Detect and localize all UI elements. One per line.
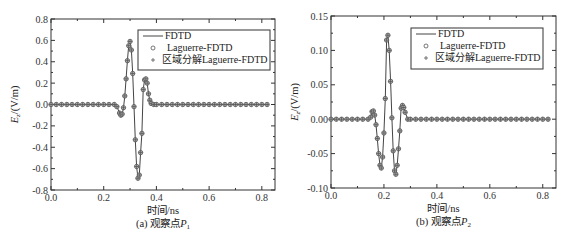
y-tick-label: 0.0 xyxy=(36,99,49,110)
y-tick-label: 0.10 xyxy=(311,45,329,56)
y-axis-label: Ez/(V/m) xyxy=(289,83,302,122)
x-tick-label: 0.2 xyxy=(378,190,391,201)
y-tick-label: -0.8 xyxy=(32,185,48,196)
y-tick-label: -0.2 xyxy=(32,120,48,131)
legend: FDTDLaguerre-FDTD区域分解Laguerre-FDTD xyxy=(411,28,543,69)
y-tick-label: -0.10 xyxy=(307,183,328,194)
legend-label: 区域分解Laguerre-FDTD xyxy=(162,53,268,65)
y-tick-label: -0.4 xyxy=(32,142,48,153)
y-tick-label: 0.4 xyxy=(36,56,49,67)
y-axis-label: Ez/(V/m) xyxy=(9,85,22,124)
x-tick-label: 0.6 xyxy=(484,190,497,201)
x-tick-label: 0.4 xyxy=(150,192,163,203)
legend-label: FDTD xyxy=(438,28,464,39)
chart-caption: (a) 观察点P1 xyxy=(136,217,191,231)
y-tick-label: 0.00 xyxy=(311,114,329,125)
chart-caption: (b) 观察点P2 xyxy=(416,215,471,229)
legend-label: Laguerre-FDTD xyxy=(440,40,506,51)
legend: FDTDLaguerre-FDTD区域分解Laguerre-FDTD xyxy=(138,30,270,70)
chart-b: 0.00.20.40.60.80.150.100.050.00-0.05-0.1… xyxy=(289,11,556,230)
y-tick-label: 0.8 xyxy=(36,14,49,25)
y-tick-label: 0.15 xyxy=(311,11,329,22)
legend-label: 区域分解Laguerre-FDTD xyxy=(435,51,541,63)
y-tick-label: -0.05 xyxy=(307,148,328,159)
x-tick-label: 0.2 xyxy=(97,192,110,203)
y-tick-label: -0.6 xyxy=(32,163,48,174)
chart-a: 0.00.20.40.60.80.80.60.40.20.0-0.2-0.4-0… xyxy=(9,14,275,232)
figure: 0.00.20.40.60.80.80.60.40.20.0-0.2-0.4-0… xyxy=(0,0,573,241)
x-tick-label: 0.8 xyxy=(537,190,550,201)
x-axis-label: 时间/ns xyxy=(147,204,179,216)
y-tick-label: 0.2 xyxy=(36,78,49,89)
x-tick-label: 0.6 xyxy=(203,192,216,203)
y-tick-label: 0.6 xyxy=(36,35,49,46)
x-axis-label: 时间/ns xyxy=(427,202,459,214)
y-tick-label: 0.05 xyxy=(311,79,329,90)
x-tick-label: 0.4 xyxy=(431,190,444,201)
legend-label: Laguerre-FDTD xyxy=(167,42,233,53)
x-tick-label: 0.8 xyxy=(256,192,269,203)
legend-label: FDTD xyxy=(165,30,191,41)
